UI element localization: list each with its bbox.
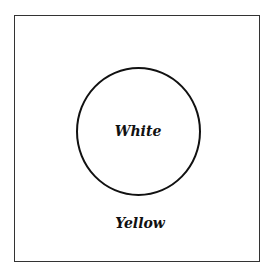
outer-region-label: Yellow: [100, 215, 180, 231]
inner-region-label: White: [98, 123, 178, 139]
